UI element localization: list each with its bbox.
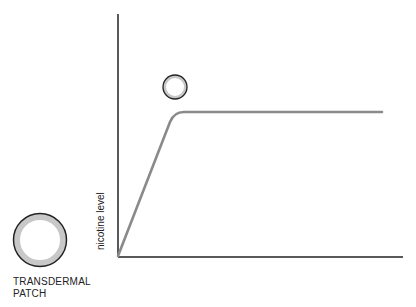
transdermal-patch-icon [14, 214, 67, 267]
patch-label: TRANSDERMAL PATCH [13, 276, 91, 300]
small-patch-circle-icon [163, 75, 187, 99]
patch-label-line1: TRANSDERMAL [13, 276, 91, 288]
y-axis-label: nicotine level [95, 192, 106, 250]
patch-label-line2: PATCH [13, 288, 91, 300]
chart-axes [118, 14, 403, 257]
nicotine-curve [118, 112, 382, 256]
diagram-canvas [0, 0, 416, 307]
